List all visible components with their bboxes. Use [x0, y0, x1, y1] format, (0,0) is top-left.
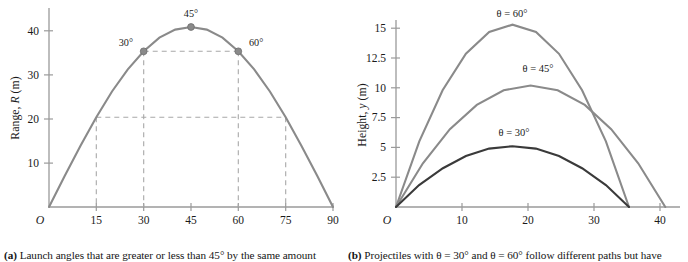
y-tick-label: 10 [28, 157, 40, 169]
x-tick-label: 30 [588, 214, 600, 226]
x-tick-label: 40 [654, 214, 666, 226]
marker-60deg [235, 48, 242, 55]
range-vs-angle-chart: 40 30 20 10 15 30 45 60 75 90 [0, 0, 344, 232]
y-tick-labels-a: 40 30 20 10 [28, 25, 40, 169]
curve-label-30deg: θ = 30° [499, 127, 530, 138]
caption-b: (b) Projectiles with θ = 30° and θ = 60°… [348, 249, 688, 262]
y-axis-title-a: Range, R (m) [8, 76, 22, 139]
x-tick-label: 15 [91, 214, 103, 226]
curve-label-45deg: θ = 45° [523, 63, 554, 74]
x-tick-labels-b: 10 20 30 40 [456, 214, 666, 226]
x-tick-label: 10 [456, 214, 468, 226]
point-label-45deg: 45° [184, 8, 198, 19]
data-point-markers-a [140, 24, 241, 55]
projectile-figure: 40 30 20 10 15 30 45 60 75 90 [0, 0, 688, 262]
x-tick-label: 90 [327, 214, 339, 226]
curve-label-60deg: θ = 60° [497, 8, 528, 19]
caption-a-label: (a) [4, 249, 17, 261]
point-label-30deg: 30° [119, 37, 133, 48]
y-tick-label: 7.5 [372, 111, 387, 123]
y-tick-label: 30 [28, 69, 40, 81]
trajectory-30deg [396, 146, 629, 207]
origin-label-b: O [383, 213, 392, 227]
marker-45deg [188, 24, 195, 31]
y-tick-label: 15 [375, 22, 387, 34]
y-tick-label: 10 [375, 82, 387, 94]
x-tick-labels-a: 15 30 45 60 75 90 [91, 214, 339, 226]
origin-label-a: O [36, 213, 45, 227]
y-axis-title-b: Height, y (m) [355, 83, 369, 146]
y-tick-label: 2.5 [372, 171, 387, 183]
x-tick-label: 45 [185, 214, 197, 226]
x-tick-label: 75 [280, 214, 292, 226]
trajectory-60deg [396, 25, 629, 207]
point-label-60deg: 60° [249, 37, 263, 48]
x-tick-label: 20 [522, 214, 534, 226]
panel-b: 2.5 5 7.5 10 12.5 15 10 20 30 40 O [344, 0, 688, 262]
x-tick-label: 30 [138, 214, 150, 226]
y-tick-label: 40 [28, 25, 40, 37]
y-tick-label: 12.5 [366, 52, 386, 64]
marker-30deg [140, 48, 147, 55]
panel-a: 40 30 20 10 15 30 45 60 75 90 [0, 0, 344, 262]
caption-b-label: (b) [348, 249, 362, 261]
y-tick-label: 5 [380, 141, 386, 153]
caption-a: (a) Launch angles that are greater or le… [4, 249, 342, 262]
x-tick-label: 60 [233, 214, 245, 226]
trajectory-chart: 2.5 5 7.5 10 12.5 15 10 20 30 40 O [344, 0, 688, 232]
y-tick-label: 20 [28, 113, 40, 125]
caption-b-text: Projectiles with θ = 30° and θ = 60° fol… [364, 249, 661, 261]
caption-a-text: Launch angles that are greater or less t… [20, 249, 316, 261]
